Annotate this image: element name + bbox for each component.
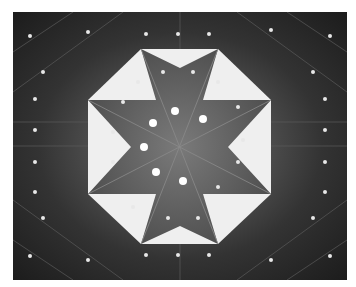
ceiling-photograph [13, 12, 347, 280]
octagonal-ceiling-illustration [13, 12, 347, 280]
